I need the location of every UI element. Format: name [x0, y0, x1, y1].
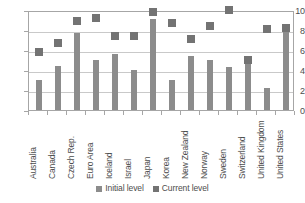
x-axis-tick-mark: [256, 111, 257, 115]
bar-initial-level: [150, 19, 156, 110]
marker-current-level: [206, 22, 214, 30]
chart-category-group: [276, 12, 295, 110]
marker-current-level: [149, 8, 157, 16]
chart-legend: Initial levelCurrent level: [0, 184, 305, 193]
x-axis-category-label: Iceland: [104, 117, 123, 179]
marker-current-level: [54, 39, 62, 47]
chart-category-group: [67, 12, 86, 110]
x-axis-category-label: Australia: [28, 117, 47, 179]
marker-current-level: [92, 14, 100, 22]
x-axis-category-label: New Zealand: [180, 117, 199, 179]
legend-swatch-icon: [153, 186, 159, 192]
legend-label: Current level: [162, 184, 209, 193]
chart-category-group: [200, 12, 219, 110]
bar-initial-level: [264, 88, 270, 110]
bar-initial-level: [131, 70, 137, 111]
x-axis-category-label-text: Switzerland: [237, 137, 247, 179]
marker-current-level: [73, 17, 81, 25]
x-axis-category-label: Korea: [161, 117, 180, 179]
marker-current-level: [111, 32, 119, 40]
marker-current-level: [187, 35, 195, 43]
x-axis-category-label-text: Euro Area: [85, 143, 95, 179]
x-axis-category-label: Sweden: [218, 117, 237, 179]
x-axis-category-label: Japan: [142, 117, 161, 179]
x-axis-category-label-text: Norway: [199, 151, 209, 179]
x-axis-tick-mark: [85, 111, 86, 115]
bar-initial-level: [188, 56, 194, 111]
x-axis-category-label: Switzerland: [237, 117, 256, 179]
x-axis-category-label-text: Australia: [28, 147, 38, 179]
x-axis-tick-mark: [294, 111, 295, 115]
chart-category-group: [219, 12, 238, 110]
x-axis-category-label: Euro Area: [85, 117, 104, 179]
chart-container: 0246810 AustraliaCanadaCzech Rep.Euro Ar…: [0, 0, 305, 203]
x-axis-tick-mark: [47, 111, 48, 115]
x-axis-tick-mark: [123, 111, 124, 115]
bar-initial-level: [245, 62, 251, 110]
legend-entry: Current level: [153, 184, 209, 193]
x-axis-category-label-text: United States: [275, 130, 285, 179]
bar-initial-level: [207, 60, 213, 110]
x-axis-category-label-text: Japan: [142, 157, 152, 179]
x-axis-tick-mark: [180, 111, 181, 115]
x-axis-category-label: Norway: [199, 117, 218, 179]
marker-current-level: [282, 24, 290, 32]
marker-current-level: [130, 32, 138, 40]
x-axis-category-label: Canada: [47, 117, 66, 179]
x-axis-category-label-text: Czech Rep.: [66, 136, 76, 179]
bar-initial-level: [93, 60, 99, 110]
x-axis-category-label: United States: [275, 117, 294, 179]
x-axis-category-label-text: Canada: [47, 150, 57, 179]
chart-category-group: [257, 12, 276, 110]
x-axis-category-label-text: New Zealand: [180, 131, 190, 179]
chart-category-group: [48, 12, 67, 110]
x-axis-tick-mark: [237, 111, 238, 115]
marker-current-level: [244, 56, 252, 64]
x-axis-category-label: Israel: [123, 117, 142, 179]
x-axis-tick-mark: [199, 111, 200, 115]
x-axis-tick-mark: [161, 111, 162, 115]
x-axis-category-label-text: Israel: [123, 159, 133, 179]
bar-initial-level: [112, 54, 118, 110]
bar-initial-level: [74, 33, 80, 110]
chart-category-group: [162, 12, 181, 110]
x-axis-category-label-text: Sweden: [218, 149, 228, 179]
bar-initial-level: [169, 80, 175, 111]
x-axis-tick-mark: [66, 111, 67, 115]
x-axis-tick-mark: [104, 111, 105, 115]
x-axis-tick-mark: [142, 111, 143, 115]
marker-current-level: [35, 48, 43, 56]
chart-category-group: [105, 12, 124, 110]
marker-current-level: [225, 6, 233, 14]
chart-category-group: [86, 12, 105, 110]
marker-current-level: [263, 25, 271, 33]
legend-entry: Initial level: [96, 184, 143, 193]
plot-area: [28, 11, 294, 111]
x-axis-category-label-text: Iceland: [104, 153, 114, 179]
chart-category-group: [181, 12, 200, 110]
x-axis-category-label-text: United Kingdom: [256, 121, 266, 179]
legend-label: Initial level: [105, 184, 143, 193]
bar-initial-level: [36, 80, 42, 111]
x-axis-category-label-text: Korea: [161, 157, 171, 179]
chart-category-group: [29, 12, 48, 110]
x-axis-category-label: Czech Rep.: [66, 117, 85, 179]
x-axis-tick-mark: [218, 111, 219, 115]
bar-initial-level: [226, 67, 232, 111]
marker-current-level: [168, 19, 176, 27]
legend-swatch-icon: [96, 186, 102, 192]
x-axis-tick-mark: [275, 111, 276, 115]
chart-category-group: [238, 12, 257, 110]
bar-initial-level: [283, 28, 289, 110]
chart-category-group: [124, 12, 143, 110]
x-axis-tick-mark: [28, 111, 29, 115]
x-axis-category-label: United Kingdom: [256, 117, 275, 179]
chart-category-group: [143, 12, 162, 110]
bar-initial-level: [55, 66, 61, 110]
